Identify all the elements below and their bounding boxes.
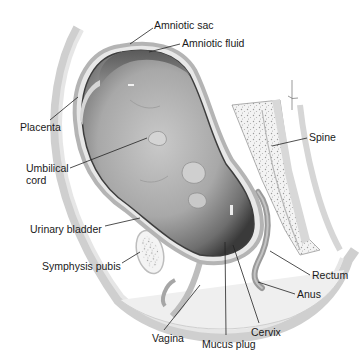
- label-amniotic-sac: Amniotic sac: [154, 19, 214, 31]
- label-mucus-plug: Mucus plug: [202, 338, 256, 350]
- label-amniotic-fluid: Amniotic fluid: [182, 37, 245, 49]
- anatomy-diagram: Amniotic sac Amniotic fluid Placenta Umb…: [0, 0, 360, 361]
- label-spine: Spine: [309, 131, 336, 143]
- label-umbilical-cord-line2: cord: [26, 174, 47, 186]
- label-vagina: Vagina: [152, 332, 184, 344]
- label-symphysis-pubis: Symphysis pubis: [42, 260, 121, 272]
- label-rectum: Rectum: [312, 269, 348, 281]
- label-placenta: Placenta: [20, 121, 61, 133]
- label-cervix: Cervix: [251, 326, 282, 338]
- uterus: [75, 44, 262, 263]
- label-urinary-bladder: Urinary bladder: [30, 223, 102, 235]
- label-umbilical-cord-line1: Umbilical: [26, 162, 69, 174]
- label-anus: Anus: [297, 288, 321, 300]
